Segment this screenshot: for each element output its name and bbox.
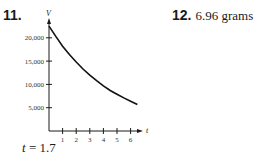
y-tick-label: 10,000 (25, 81, 45, 89)
y-tick-label: 15,000 (25, 58, 45, 66)
x-tick-label: 2 (74, 136, 78, 144)
series-line-v (49, 26, 137, 104)
answer-value: = 1.7 (26, 140, 56, 155)
x-axis-arrow (137, 129, 143, 133)
y-axis-arrow (47, 18, 51, 24)
problem-11-answer: t = 1.7 (22, 140, 56, 156)
y-tick-label: 5,000 (28, 104, 44, 112)
x-tick-label: 3 (88, 136, 92, 144)
y-ticks: 5,00010,00015,00020,000 (25, 34, 52, 112)
axes: V t (46, 9, 149, 135)
x-tick-label: 4 (102, 136, 106, 144)
x-tick-label: 6 (129, 136, 133, 144)
x-tick-label: 1 (61, 136, 65, 144)
y-axis-label: V (46, 9, 52, 18)
x-axis-label: t (146, 126, 149, 135)
decay-chart: V t 123456 5,00010,00015,00020,000 (0, 0, 274, 158)
x-tick-label: 5 (115, 136, 119, 144)
x-ticks: 123456 (61, 128, 133, 144)
y-tick-label: 20,000 (25, 34, 45, 42)
